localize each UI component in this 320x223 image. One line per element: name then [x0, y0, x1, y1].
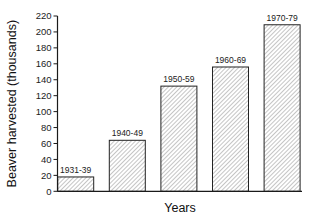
y-tick-label: 100 [36, 106, 52, 117]
bar-label: 1931-39 [60, 165, 91, 175]
bar-chart: 020406080100120140160180200220 1931-3919… [0, 0, 320, 223]
y-tick-label: 160 [36, 58, 52, 69]
y-tick-label: 80 [41, 122, 52, 133]
bar-label: 1960-69 [215, 55, 246, 65]
y-tick-label: 140 [36, 74, 52, 85]
bar-label: 1970-79 [266, 13, 297, 23]
y-tick-label: 60 [41, 138, 52, 149]
bar-label: 1950-59 [163, 74, 194, 84]
y-tick-label: 120 [36, 90, 52, 101]
y-tick-label: 40 [41, 154, 52, 165]
y-tick-label: 20 [41, 170, 52, 181]
bar-1960-69 [213, 67, 249, 191]
bar-1931-39 [58, 177, 94, 191]
bars: 1931-391940-491950-591960-691970-79 [58, 13, 300, 192]
y-tick-label: 220 [36, 10, 52, 21]
bar-1940-49 [109, 140, 145, 191]
y-tick-label: 0 [46, 186, 51, 197]
x-axis-title: Years [164, 201, 196, 215]
y-tick-label: 200 [36, 26, 52, 37]
y-axis-title: Beaver harvested (thousands) [5, 20, 19, 187]
bar-label: 1940-49 [112, 128, 143, 138]
bar-1970-79 [264, 25, 300, 192]
y-axis-ticks: 020406080100120140160180200220 [36, 10, 58, 196]
bar-1950-59 [161, 86, 197, 191]
y-tick-label: 180 [36, 42, 52, 53]
